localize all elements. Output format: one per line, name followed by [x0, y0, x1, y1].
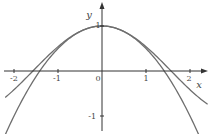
- y-axis-arrow-icon: [100, 2, 105, 9]
- x-axis-arrow-icon: [201, 69, 208, 74]
- y-axis-label: y: [85, 9, 92, 20]
- origin-label: 0: [95, 74, 100, 83]
- x-tick-label-1: 1: [143, 74, 148, 83]
- x-tick-label-neg2: -2: [10, 74, 18, 83]
- y-tick-label-neg1: -1: [88, 112, 96, 121]
- y-tick-label-1: 1: [95, 21, 100, 30]
- x-axis-label: x: [196, 79, 202, 90]
- function-plot: -2 -1 0 1 2 1 -1 y x: [0, 0, 210, 134]
- curves: [5, 26, 207, 134]
- x-tick-label-2: 2: [186, 74, 191, 83]
- x-tick-label-neg1: -1: [53, 74, 61, 83]
